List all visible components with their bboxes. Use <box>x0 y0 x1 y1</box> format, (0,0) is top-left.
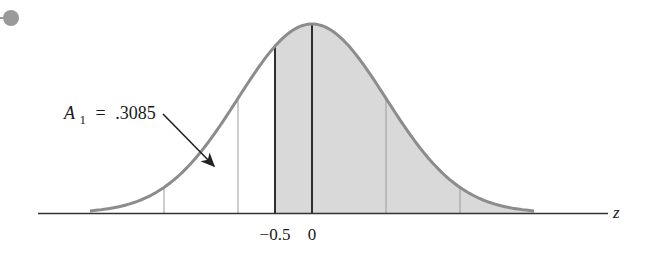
shaded-area <box>275 24 534 213</box>
tick-label-neg-half: −0.5 <box>260 225 291 244</box>
arrow-icon <box>163 114 214 166</box>
area-annotation: A 1 = .3085 <box>63 103 156 128</box>
area-equals: = <box>96 103 106 123</box>
axis-variable-label: z <box>612 203 620 222</box>
area-symbol: A <box>63 103 76 123</box>
area-subscript: 1 <box>80 112 87 127</box>
bullet-icon <box>3 10 19 26</box>
tick-label-zero: 0 <box>308 225 317 244</box>
area-value: .3085 <box>115 103 156 123</box>
normal-curve-diagram: z −0.5 0 A 1 = .3085 <box>0 0 652 255</box>
